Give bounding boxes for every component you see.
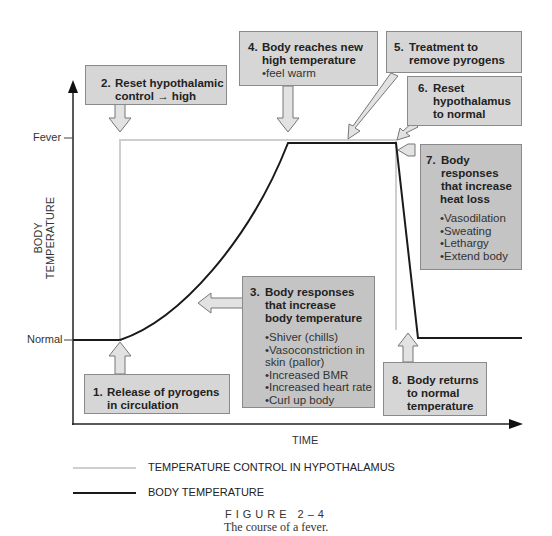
step-3-bullet: Increased BMR	[265, 369, 375, 382]
step-5-box: 5.Treatment to remove pyrogens	[386, 31, 522, 73]
step-8-title-line2: to normal	[407, 387, 459, 399]
y-tick-normal: Normal	[27, 333, 62, 345]
legend-swatch-hypothalamus	[73, 467, 136, 469]
arrow-1-up	[109, 342, 131, 374]
step-7-title-line1: Body	[441, 154, 470, 166]
step-2-number: 2.	[101, 77, 115, 90]
step-1-title-line2: in circulation	[107, 399, 179, 411]
y-axis-label: BODY TEMPERATURE	[32, 188, 56, 288]
step-3-bullet: Shiver (chills)	[265, 331, 375, 344]
figure-caption: The course of a fever.	[224, 520, 328, 535]
step-3-box: 3.Body responses that increase body temp…	[242, 276, 375, 408]
step-6-title-line1: Reset	[433, 82, 464, 94]
step-4-number: 4.	[248, 41, 262, 54]
step-2-title-line2: control → high	[115, 90, 196, 102]
step-5-title-line1: Treatment to	[409, 41, 478, 53]
step-7-bullet: Vasodilation	[440, 212, 521, 225]
step-7-bullet: Extend body	[440, 250, 521, 263]
step-6-number: 6.	[418, 82, 433, 95]
step-7-bullet: Sweating	[440, 225, 521, 238]
step-7-title-line3: that increase	[441, 180, 512, 192]
step-8-number: 8.	[392, 374, 407, 387]
step-7-title-line2: responses	[441, 167, 499, 179]
step-3-bullet: Vasoconstriction in skin (pallor)	[265, 344, 375, 369]
step-3-number: 3.	[250, 286, 265, 299]
legend-label-hypothalamus: TEMPERATURE CONTROL IN HYPOTHALAMUS	[148, 461, 395, 473]
figure-label: FIGURE 2–4	[225, 508, 328, 520]
step-6-box: 6.Reset hypothalamus to normal	[407, 76, 522, 126]
step-3-title-line3: body temperature	[265, 312, 362, 324]
step-2-title-line1: Reset hypothalamic	[115, 77, 224, 89]
step-4-bullet: feel warm	[262, 67, 377, 80]
y-axis-arrow	[68, 80, 78, 93]
step-5-number: 5.	[394, 41, 409, 54]
step-3-title-line1: Body responses	[265, 286, 354, 298]
step-6-title-line3: to normal	[433, 108, 485, 120]
arrow-2-down	[109, 104, 131, 132]
x-axis-arrow	[509, 419, 523, 429]
step-7-title-line4: heat loss	[440, 193, 490, 205]
step-8-title-line1: Body returns	[407, 374, 479, 386]
arrow-7-left	[398, 144, 415, 156]
step-2-box: 2.Reset hypothalamic control → high	[85, 65, 227, 105]
step-1-box: 1.Release of pyrogens in circulation	[84, 374, 230, 414]
step-3-bullet: Curl up body	[265, 394, 375, 407]
legend-swatch-body-temperature	[73, 492, 136, 494]
arrow-3-left	[198, 293, 244, 313]
step-6-title-line2: hypothalamus	[433, 95, 511, 107]
step-4-title-line1: Body reaches new	[262, 41, 363, 53]
step-7-bullet: Lethargy	[440, 237, 521, 250]
legend-label-body-temperature: BODY TEMPERATURE	[148, 486, 264, 498]
step-8-title-line3: temperature	[407, 400, 473, 412]
arrow-8-up	[398, 333, 418, 362]
step-3-bullet: Increased heart rate	[265, 381, 375, 394]
step-7-box: 7.Body responses that increase heat loss…	[420, 144, 522, 270]
arrow-4-down	[277, 86, 299, 132]
y-tick-fever: Fever	[33, 131, 61, 143]
step-8-box: 8.Body returns to normal temperature	[383, 362, 487, 416]
step-1-number: 1.	[93, 386, 107, 399]
x-axis-label: TIME	[292, 434, 318, 446]
step-4-box: 4.Body reaches new high temperature feel…	[239, 31, 378, 86]
step-5-title-line2: remove pyrogens	[409, 54, 505, 66]
step-1-title-line1: Release of pyrogens	[107, 386, 219, 398]
step-3-title-line2: that increase	[265, 299, 336, 311]
step-4-title-line2: high temperature	[262, 54, 356, 66]
step-7-number: 7.	[426, 154, 441, 167]
